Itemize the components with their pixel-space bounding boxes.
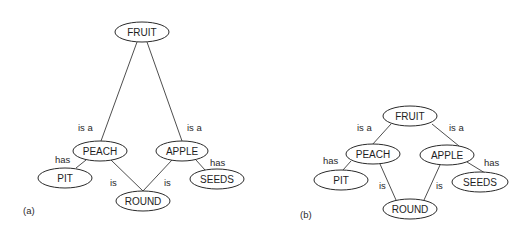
edge-label-apple-isa: is a — [187, 122, 203, 133]
edge-apple-has-seeds — [467, 162, 485, 173]
node-label: ROUND — [125, 196, 162, 207]
node-label: PEACH — [356, 149, 390, 160]
edge-peach-has-pit — [76, 160, 86, 168]
node-round: ROUND — [383, 199, 437, 219]
edge-label-apple-has: has — [210, 157, 226, 168]
panel-a: FRUIT PEACH APPLE PIT SEEDS ROUND is a i… — [23, 22, 244, 216]
node-seeds: SEEDS — [190, 169, 244, 189]
edge-label-peach-has: has — [323, 155, 339, 166]
edge-label-apple-has: has — [484, 157, 500, 168]
node-apple: APPLE — [420, 145, 474, 165]
node-label: FRUIT — [395, 111, 424, 122]
edge-label-peach-isa: is a — [357, 122, 373, 133]
edge-peach-isa-fruit — [101, 42, 137, 141]
edge-label-apple-is: is — [164, 177, 171, 188]
panel-b: FRUIT PEACH APPLE PIT SEEDS ROUND is a i… — [300, 106, 508, 220]
node-label: PEACH — [83, 146, 117, 157]
panel-label-b: (b) — [300, 209, 312, 220]
edge-label-peach-is: is — [379, 180, 386, 191]
node-label: SEEDS — [200, 174, 234, 185]
node-apple: APPLE — [156, 141, 208, 161]
semantic-network-figure: FRUIT PEACH APPLE PIT SEEDS ROUND is a i… — [0, 0, 532, 234]
node-label: ROUND — [392, 204, 429, 215]
node-peach: PEACH — [346, 144, 400, 164]
edge-apple-has-seeds — [196, 160, 205, 170]
node-peach: PEACH — [73, 141, 127, 161]
node-label: APPLE — [166, 146, 199, 157]
node-label: FRUIT — [127, 27, 156, 38]
edge-label-apple-isa: is a — [449, 122, 465, 133]
node-label: PIT — [57, 173, 73, 184]
edge-peach-has-pit — [343, 161, 351, 170]
node-fruit: FRUIT — [383, 106, 437, 126]
edge-label-peach-has: has — [55, 154, 71, 165]
node-seeds: SEEDS — [452, 172, 508, 192]
edge-label-peach-isa: is a — [78, 122, 94, 133]
node-round: ROUND — [116, 191, 170, 211]
edge-peach-isa-fruit — [372, 124, 391, 145]
panel-label-a: (a) — [23, 205, 35, 216]
node-fruit: FRUIT — [115, 22, 169, 42]
edge-label-peach-is: is — [110, 177, 117, 188]
node-label: PIT — [333, 175, 349, 186]
edge-label-apple-is: is — [436, 180, 443, 191]
node-label: APPLE — [431, 150, 464, 161]
node-pit: PIT — [38, 168, 92, 188]
edge-apple-isa-fruit — [147, 42, 182, 141]
node-label: SEEDS — [463, 177, 497, 188]
node-pit: PIT — [314, 170, 368, 190]
